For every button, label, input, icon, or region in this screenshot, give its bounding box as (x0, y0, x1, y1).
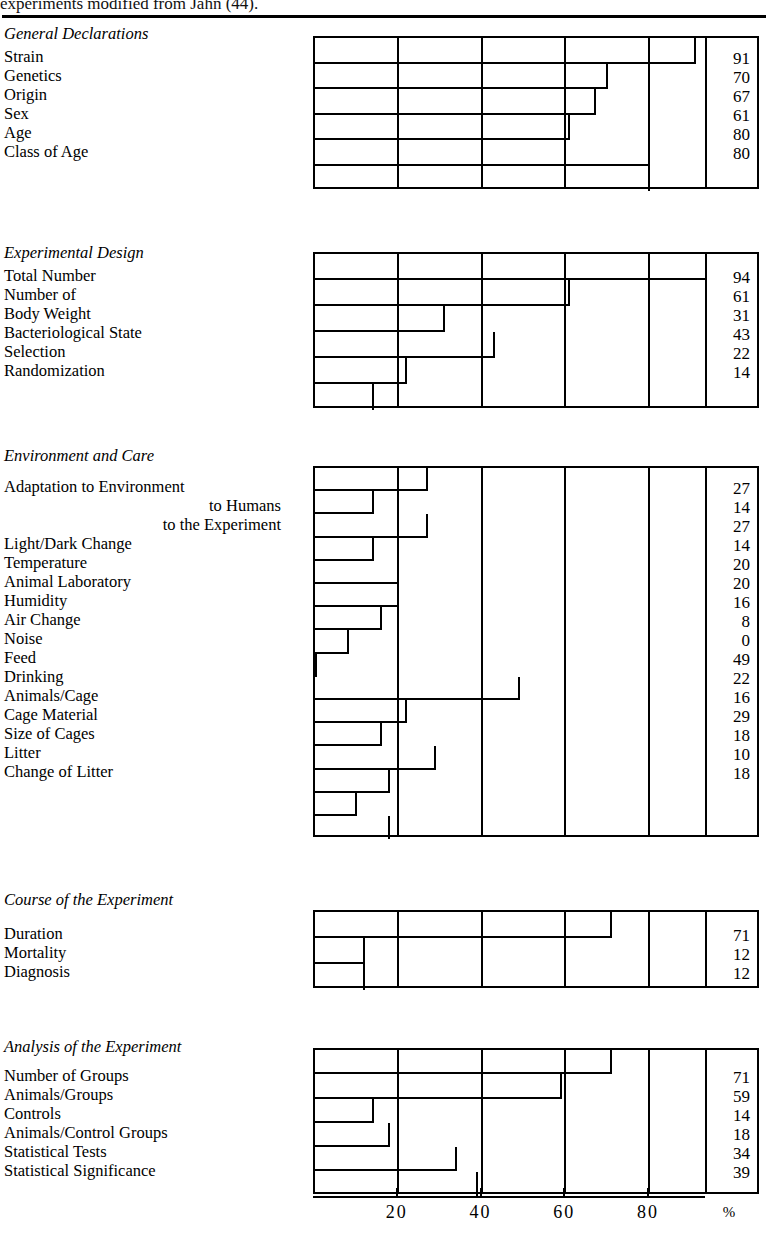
bar (315, 306, 445, 332)
gridline-40 (481, 468, 483, 835)
bar (315, 332, 495, 358)
row-label: Drinking (0, 667, 300, 686)
value-column: 946131432214 (705, 252, 759, 408)
bar (315, 938, 365, 964)
value-cell: 18 (733, 1125, 750, 1144)
value-cell: 59 (733, 1087, 750, 1106)
row-label: Light/Dark Change (0, 534, 300, 553)
plot-area (313, 36, 707, 189)
value-cell: 18 (733, 726, 750, 745)
value-cell: 80 (733, 125, 750, 144)
bar (315, 384, 374, 410)
value-cell: 70 (733, 68, 750, 87)
value-cell: 12 (733, 964, 750, 983)
value-cell: 49 (733, 650, 750, 669)
plot-area (313, 1048, 707, 1194)
bar (315, 1147, 457, 1171)
gridline-80 (648, 468, 650, 835)
bar (315, 89, 596, 115)
row-label: Body Weight (0, 304, 300, 323)
row-label: Controls (0, 1104, 300, 1123)
value-cell: 20 (733, 574, 750, 593)
bar (315, 514, 428, 537)
bar (315, 468, 428, 491)
row-label: Air Change (0, 610, 300, 629)
value-cell: 18 (733, 764, 750, 783)
row-label: Change of Litter (0, 762, 300, 781)
row-label: Duration (0, 924, 300, 943)
row-label: Adaptation to Environment (0, 477, 300, 496)
value-cell: 22 (733, 669, 750, 688)
row-label: Animals/Control Groups (0, 1123, 300, 1142)
value-cell: 10 (733, 745, 750, 764)
row-label: Cage Material (0, 705, 300, 724)
row-label: Selection (0, 342, 300, 361)
value-cell: 31 (733, 306, 750, 325)
x-tick-60 (563, 1188, 565, 1196)
row-label: Sex (0, 104, 300, 123)
x-tick-label: 60 (553, 1202, 575, 1223)
plot-area (313, 466, 707, 837)
row-label: Strain (0, 47, 300, 66)
row-label: Statistical Significance (0, 1161, 300, 1180)
bar (315, 912, 612, 938)
value-column: 917067618080 (705, 36, 759, 189)
gridline-80 (648, 1050, 650, 1192)
page-caption: experiments modified from Jahn (44). (0, 0, 769, 14)
row-label: Animal Laboratory (0, 572, 300, 591)
value-column: 711212 (705, 910, 759, 988)
row-label: Mortality (0, 943, 300, 962)
bar (315, 38, 696, 64)
bar (315, 1099, 374, 1123)
row-label: Class of Age (0, 142, 300, 161)
row-label: Noise (0, 629, 300, 648)
bar (315, 1123, 390, 1147)
row-label: Bacteriological State (0, 323, 300, 342)
row-label: Animals/Groups (0, 1085, 300, 1104)
row-label: Number of Groups (0, 1066, 300, 1085)
value-cell: 22 (733, 344, 750, 363)
bar (315, 561, 399, 584)
value-column: 715914183439 (705, 1048, 759, 1194)
row-label: Number of (0, 285, 300, 304)
value-cell: 91 (733, 49, 750, 68)
value-cell: 8 (742, 612, 751, 631)
x-axis: 20406080% (313, 1196, 759, 1248)
bar (315, 816, 390, 839)
plot-area (313, 910, 707, 988)
value-cell: 16 (733, 688, 750, 707)
value-cell: 67 (733, 87, 750, 106)
value-cell: 61 (733, 106, 750, 125)
bar (315, 1050, 612, 1074)
row-label: to Humans (0, 496, 300, 515)
value-cell: 14 (733, 1106, 750, 1125)
bar (315, 254, 709, 280)
bar (315, 654, 317, 677)
bar (315, 358, 407, 384)
x-tick-label: 80 (637, 1202, 659, 1223)
row-label: Humidity (0, 591, 300, 610)
plot-area (313, 252, 707, 408)
row-label: Diagnosis (0, 962, 300, 981)
bar (315, 746, 436, 769)
bar (315, 630, 349, 653)
value-cell: 14 (733, 363, 750, 382)
x-tick-40 (480, 1188, 482, 1196)
value-cell: 43 (733, 325, 750, 344)
bar (315, 280, 570, 306)
value-cell: 34 (733, 1144, 750, 1163)
bar (315, 723, 382, 746)
bar (315, 584, 399, 607)
header-rule (2, 15, 766, 18)
row-label: Genetics (0, 66, 300, 85)
bar (315, 607, 382, 630)
x-tick-80 (647, 1188, 649, 1196)
value-cell: 0 (742, 631, 751, 650)
x-axis-line (313, 1196, 705, 1198)
row-label: to the Experiment (0, 515, 300, 534)
row-label: Randomization (0, 361, 300, 380)
value-cell: 29 (733, 707, 750, 726)
row-label: Statistical Tests (0, 1142, 300, 1161)
x-axis-unit-label: % (723, 1202, 736, 1223)
bar (315, 538, 374, 561)
